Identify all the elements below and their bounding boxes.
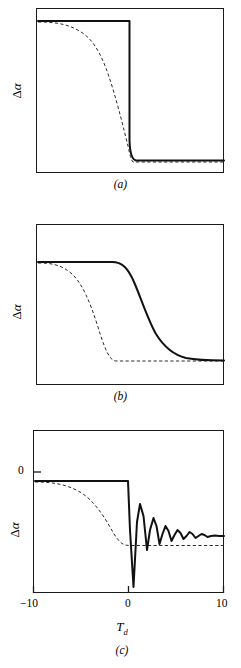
panel-a-dashed-curve [38,22,224,162]
panel-c-xaxis-label: Td [12,619,232,637]
panel-c: 0 Δα −10 0 10 Td (c) [0,430,241,668]
panel-c-xtick-label-right: 10 [216,597,228,609]
panel-a-solid-curve [38,21,224,161]
panel-c-xtick-label-mid: 0 [125,597,131,609]
panel-a-plot [0,0,241,195]
panel-c-solid-curve [35,481,224,587]
panel-c-label: (c) [12,644,232,656]
panel-b: Δα (b) [0,216,241,412]
panel-b-label: (b) [0,390,241,402]
panel-b-solid-curve [38,262,224,361]
panel-b-plot [0,216,241,412]
panel-c-xtick-label-left: −10 [20,597,38,609]
panel-a-label: (a) [0,178,241,190]
figure-container: Δα (a) Δα (b) 0 Δα [0,0,241,668]
panel-a: Δα (a) [0,0,241,195]
xaxis-label-sub: d [123,627,127,637]
